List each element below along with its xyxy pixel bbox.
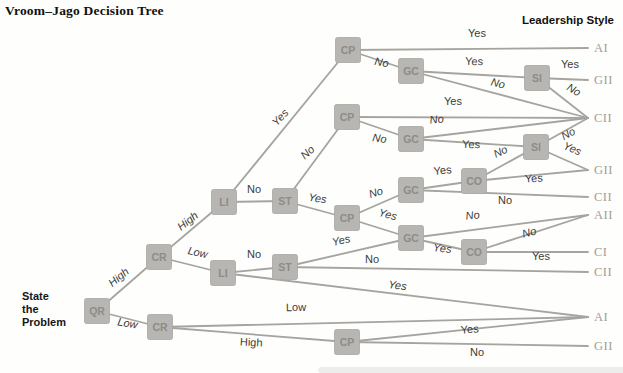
outcome-O2-GII: GII bbox=[594, 73, 613, 87]
node-CO2-label: CO bbox=[466, 246, 482, 258]
outcome-O7-CI: CI bbox=[594, 245, 608, 259]
edge-label-SI1-O2: Yes bbox=[561, 58, 579, 70]
edge-CP2-O3 bbox=[347, 117, 588, 118]
edge-label-GC3-O5: No bbox=[498, 194, 512, 206]
decision-tree-diagram: HighLowHighLowYesNoNoYesNoYesYesNoYesNoY… bbox=[0, 0, 623, 373]
outcome-O3-CII: CII bbox=[594, 111, 612, 125]
edge-label-GC2-SI2: Yes bbox=[462, 138, 481, 151]
node-CP2-label: CP bbox=[340, 111, 355, 123]
outcome-O6-AII: AII bbox=[594, 208, 613, 222]
edge-label-CP3-GC4: Yes bbox=[378, 206, 399, 222]
edge-CP1-O1 bbox=[348, 48, 588, 50]
node-GC3-label: GC bbox=[403, 184, 419, 196]
edge-label-LI2-ST2: No bbox=[247, 248, 261, 260]
outcome-O10-GII: GII bbox=[594, 339, 613, 353]
edge-label-LI1-ST1: No bbox=[247, 183, 261, 195]
node-SI2-label: SI bbox=[531, 141, 541, 153]
node-GC4-label: GC bbox=[403, 232, 419, 244]
edge-label-CP2-GC2: No bbox=[372, 131, 388, 145]
node-CO1-label: CO bbox=[466, 175, 482, 187]
edge-label-CO2-O6: No bbox=[521, 225, 538, 240]
node-LI2-label: LI bbox=[218, 267, 227, 279]
node-GC1-label: GC bbox=[403, 65, 419, 77]
edge-label-SI2-O4: Yes bbox=[562, 139, 584, 157]
node-GC2-label: GC bbox=[403, 133, 419, 145]
page-edge-shadow bbox=[318, 367, 623, 373]
edge-label-QR-CR2: Low bbox=[117, 315, 140, 331]
edge-label-GC1-SI1: Yes bbox=[465, 55, 484, 68]
edge-label-CP4-O9: Yes bbox=[460, 322, 479, 336]
edge-label-GC4-CO2: Yes bbox=[433, 241, 453, 255]
node-CP1-label: CP bbox=[341, 44, 356, 56]
node-SI1-label: SI bbox=[532, 72, 542, 84]
edge-CP4-O10 bbox=[347, 342, 588, 346]
outcome-O5-CII: CII bbox=[594, 190, 612, 204]
edge-ST2-O8 bbox=[285, 267, 588, 272]
edge-GC4-O6 bbox=[411, 215, 588, 238]
node-CR2-label: CR bbox=[152, 321, 168, 333]
node-CP3-label: CP bbox=[340, 212, 355, 224]
node-ST2-label: ST bbox=[278, 261, 292, 273]
node-CR1-label: CR bbox=[151, 251, 167, 263]
edge-label-GC2-O3: No bbox=[429, 112, 444, 125]
edge-label-CO2-O7: Yes bbox=[532, 250, 550, 262]
edge-label-CP3-GC3: No bbox=[367, 184, 384, 200]
edge-label-ST2-GC4: Yes bbox=[331, 232, 352, 248]
outcome-O4-GII: GII bbox=[594, 163, 613, 177]
edge-label-SI1-O3: No bbox=[565, 81, 583, 98]
node-QR-label: QR bbox=[89, 305, 105, 317]
edge-label-GC4-O6: No bbox=[465, 208, 480, 222]
edge-label-LI2-O9: Yes bbox=[388, 278, 408, 292]
edge-label-CP1-O1: Yes bbox=[468, 27, 486, 39]
edge-label-GC1-O3: No bbox=[490, 76, 507, 91]
edge-label-CP4-O10: No bbox=[470, 346, 484, 358]
node-ST1-label: ST bbox=[278, 195, 292, 207]
edge-label-CO1-O4: Yes bbox=[525, 172, 544, 185]
edge-LI1-CP1 bbox=[224, 50, 348, 202]
edge-label-CP2-O3: Yes bbox=[444, 95, 462, 107]
edge-label-CP1-GC1: No bbox=[374, 55, 390, 69]
outcome-O9-AI: AI bbox=[594, 310, 608, 324]
edge-CR2-O9 bbox=[160, 317, 588, 327]
node-LI1-label: LI bbox=[219, 196, 228, 208]
edge-label-ST1-CP2: No bbox=[298, 143, 316, 161]
outcome-O1-AI: AI bbox=[594, 41, 608, 55]
edge-label-CR1-LI2: Low bbox=[187, 244, 210, 260]
edge-label-CR2-O9: Low bbox=[286, 301, 306, 313]
outcome-O8-CII: CII bbox=[594, 265, 612, 279]
edge-label-GC3-CO1: Yes bbox=[433, 163, 453, 177]
decision-tree-figure: Vroom–Jago Decision Tree Leadership Styl… bbox=[0, 0, 623, 373]
edge-label-ST1-CP3: Yes bbox=[308, 191, 328, 206]
edge-GC1-SI1 bbox=[411, 71, 537, 78]
edge-label-CR2-CP4: High bbox=[240, 335, 263, 348]
edge-label-ST2-O8: No bbox=[365, 253, 379, 265]
node-CP4-label: CP bbox=[340, 336, 355, 348]
edge-label-CR1-LI1: High bbox=[175, 209, 200, 232]
